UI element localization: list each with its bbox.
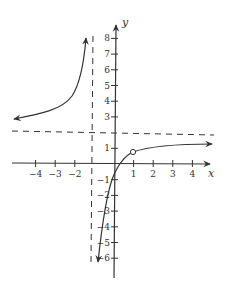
y-axis-label: y — [121, 16, 129, 29]
vertical-asymptote — [91, 36, 93, 262]
y-tick-label: 7 — [104, 49, 110, 59]
y-tick-label: 4 — [104, 96, 110, 106]
y-axis — [114, 25, 116, 278]
function-graph: x y −4−3−21234 8765431−1−2−3−4−5−6 — [0, 0, 228, 294]
y-tick-label: 3 — [104, 112, 110, 122]
y-tick-label: 1 — [104, 143, 110, 153]
horizontal-asymptote — [12, 131, 214, 135]
y-tick-label: 8 — [104, 33, 110, 43]
x-tick-label: 2 — [150, 169, 156, 179]
x-tick-label: 1 — [131, 169, 137, 179]
open-point-hole — [130, 149, 135, 154]
x-tick-label: −3 — [49, 169, 63, 179]
y-tick-label: 5 — [104, 81, 110, 91]
curve-left-branch — [14, 38, 86, 119]
y-tick-label: −1 — [97, 175, 110, 185]
y-tick-label: −4 — [97, 222, 111, 232]
x-tick-label: −2 — [68, 169, 81, 179]
x-tick-label: −4 — [29, 169, 43, 179]
x-tick-label: 3 — [170, 169, 176, 179]
y-tick-label: 6 — [104, 65, 110, 75]
x-tick-label: 4 — [190, 169, 196, 179]
x-axis — [12, 163, 210, 164]
x-axis-label: x — [208, 167, 215, 180]
y-tick-label: −3 — [97, 206, 111, 216]
y-tick-label: −5 — [97, 238, 111, 248]
